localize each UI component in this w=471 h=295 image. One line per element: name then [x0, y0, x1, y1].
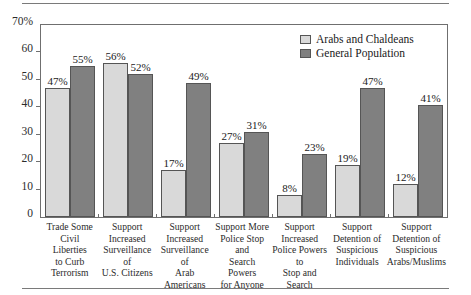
bar[interactable]: [70, 66, 95, 217]
bar-slot: 41%: [418, 25, 443, 217]
x-axis-label-line: Trade Some: [42, 221, 97, 233]
x-axis-label-line: Support: [329, 221, 384, 233]
y-axis-tick-label: 30: [22, 126, 34, 138]
bottom-divider: [22, 288, 449, 289]
bar[interactable]: [219, 143, 244, 217]
bar-value-label: 55%: [72, 54, 92, 65]
x-axis-category-label: SupportIncreasedSurveillance ofU.S. Citi…: [98, 221, 155, 291]
x-axis-category-label: Support MorePolice Stop andSearch Powers…: [213, 221, 270, 291]
bar-group: 17%49%: [157, 25, 215, 217]
x-axis-category-label: SupportDetention ofSuspiciousArabs/Musli…: [386, 221, 447, 291]
x-axis-label-line: Terrorism: [42, 267, 97, 279]
x-axis-labels: Trade SomeCivil Libertiesto CurbTerroris…: [41, 221, 447, 291]
bar-value-label: 52%: [130, 62, 150, 73]
bar-group: 47%55%: [41, 25, 99, 217]
bar[interactable]: [302, 154, 327, 217]
x-axis-label-line: Support: [157, 221, 212, 233]
bar-value-label: 19%: [337, 153, 357, 164]
bar-slot: 56%: [103, 25, 128, 217]
bar-slot: 47%: [45, 25, 70, 217]
bar-value-label: 31%: [246, 120, 266, 131]
x-axis-label-line: Increased: [157, 233, 212, 245]
bar[interactable]: [335, 165, 360, 217]
bar[interactable]: [103, 63, 128, 217]
bar[interactable]: [360, 88, 385, 217]
x-axis-category-label: SupportIncreasedPolice Powers toStop and…: [271, 221, 328, 291]
bar-value-label: 49%: [188, 71, 208, 82]
y-axis-tick-label: 70%: [12, 16, 33, 28]
legend-swatch-dark: [300, 49, 311, 58]
x-axis-label-line: Individuals: [329, 256, 384, 268]
bar-value-label: 12%: [395, 172, 415, 183]
legend-item[interactable]: Arabs and Chaldeans: [300, 33, 414, 45]
y-axis: 010203040506070%: [0, 24, 40, 218]
legend-item-label: Arabs and Chaldeans: [316, 33, 414, 45]
y-axis-tick-label: 60: [22, 43, 34, 55]
bar-value-label: 8%: [282, 183, 297, 194]
bar[interactable]: [161, 170, 186, 217]
x-axis-label-line: Increased: [272, 233, 327, 245]
x-axis-label-line: Civil Liberties: [42, 233, 97, 256]
y-axis-tick-label: 0: [27, 208, 33, 220]
bar-value-label: 41%: [420, 93, 440, 104]
legend-swatch-light: [300, 35, 311, 44]
x-axis-category-label: Trade SomeCivil Libertiesto CurbTerroris…: [41, 221, 98, 291]
x-axis-label-line: Support: [99, 221, 154, 233]
x-axis-label-line: to Curb: [42, 256, 97, 268]
bar[interactable]: [186, 83, 211, 217]
y-axis-tick-label: 50: [22, 71, 34, 83]
y-axis-tick-label: 10: [22, 181, 34, 193]
legend-item[interactable]: General Population: [300, 47, 414, 59]
bar-group: 27%31%: [215, 25, 273, 217]
y-axis-tick-label: 40: [22, 98, 34, 110]
x-axis-label-line: Arabs/Muslims: [387, 256, 446, 268]
top-divider: [22, 3, 449, 4]
bar[interactable]: [45, 88, 70, 217]
bar[interactable]: [128, 74, 153, 217]
bar-value-label: 47%: [47, 76, 67, 87]
x-axis-category-label: SupportIncreasedSurveillance ofArab Amer…: [156, 221, 213, 291]
x-axis-label-line: U.S. Citizens: [99, 267, 154, 279]
x-axis-label-line: Surveillance of: [99, 244, 154, 267]
x-axis-label-line: Detention of: [329, 233, 384, 245]
bar[interactable]: [277, 195, 302, 217]
x-axis-label-line: Detention of: [387, 233, 446, 245]
x-axis-label-line: Police Stop and: [214, 233, 269, 256]
legend-item-label: General Population: [316, 47, 405, 59]
bar-slot: 17%: [161, 25, 186, 217]
bar-value-label: 47%: [362, 76, 382, 87]
legend: Arabs and ChaldeansGeneral Population: [300, 33, 414, 59]
x-axis-label-line: Suspicious: [387, 244, 446, 256]
x-axis-label-line: Surveillance of: [157, 244, 212, 267]
x-axis-label-line: Support More: [214, 221, 269, 233]
bar[interactable]: [393, 184, 418, 217]
x-axis-label-line: Support: [387, 221, 446, 233]
bar[interactable]: [244, 132, 269, 217]
bar-value-label: 27%: [221, 131, 241, 142]
x-axis-label-line: Suspicious: [329, 244, 384, 256]
bar-slot: 55%: [70, 25, 95, 217]
bar-value-label: 56%: [105, 51, 125, 62]
x-axis-label-line: Increased: [99, 233, 154, 245]
bar-slot: 52%: [128, 25, 153, 217]
x-axis-label-line: Support: [272, 221, 327, 233]
x-axis-category-label: SupportDetention ofSuspiciousIndividuals: [328, 221, 385, 291]
bar-value-label: 17%: [163, 158, 183, 169]
bar[interactable]: [418, 105, 443, 217]
bar-slot: 8%: [277, 25, 302, 217]
bar-slot: 31%: [244, 25, 269, 217]
x-axis-label-line: Police Powers to: [272, 244, 327, 267]
x-axis-label-line: Search Powers: [214, 256, 269, 279]
bar-group: 56%52%: [99, 25, 157, 217]
bar-slot: 49%: [186, 25, 211, 217]
bar-value-label: 23%: [304, 142, 324, 153]
bar-slot: 27%: [219, 25, 244, 217]
y-axis-tick-label: 20: [22, 153, 34, 165]
